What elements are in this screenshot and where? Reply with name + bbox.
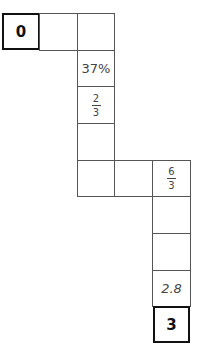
start-cell: 0 bbox=[2, 13, 40, 50]
value-2-point-8: 2.8 bbox=[161, 281, 182, 296]
fraction-two-thirds: 2 3 bbox=[92, 93, 101, 118]
path-cell-3[interactable]: 37% bbox=[77, 50, 115, 87]
start-value: 0 bbox=[16, 23, 26, 41]
end-value: 3 bbox=[166, 316, 176, 334]
fraction-six-thirds: 6 3 bbox=[167, 166, 176, 191]
value-37-percent: 37% bbox=[82, 61, 111, 76]
end-cell: 3 bbox=[153, 306, 190, 343]
path-cell-1[interactable] bbox=[39, 13, 78, 51]
path-cell-10[interactable] bbox=[152, 233, 191, 271]
path-cell-9[interactable] bbox=[152, 196, 191, 234]
path-cell-11[interactable]: 2.8 bbox=[152, 270, 191, 307]
path-cell-5[interactable] bbox=[77, 123, 115, 161]
path-cell-7[interactable] bbox=[114, 160, 153, 197]
path-cell-4[interactable]: 2 3 bbox=[77, 86, 115, 124]
path-cell-6[interactable] bbox=[77, 160, 115, 197]
path-cell-2[interactable] bbox=[77, 13, 115, 51]
path-cell-8[interactable]: 6 3 bbox=[152, 160, 191, 197]
